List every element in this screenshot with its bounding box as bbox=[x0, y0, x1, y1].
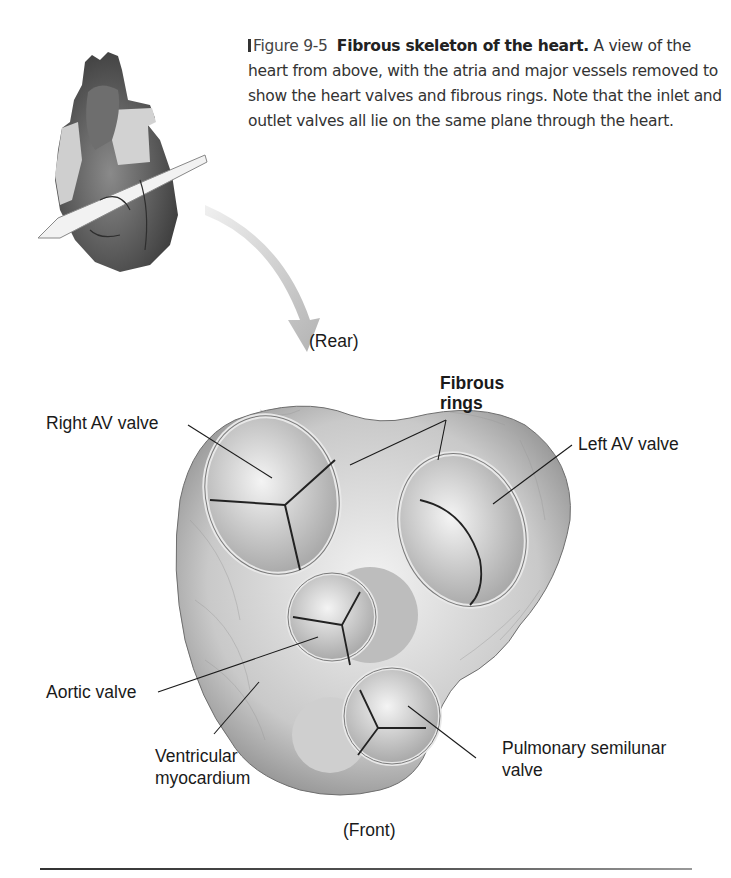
pulmonary-semilunar-valve-label-line1: Pulmonary semilunar bbox=[502, 738, 666, 759]
ventricular-myocardium-label-line1: Ventricular bbox=[155, 746, 238, 767]
pulmonary-semilunar-valve-label-line2: valve bbox=[502, 760, 543, 781]
ventricular-myocardium-label-line2: myocardium bbox=[155, 768, 250, 789]
figure-marker-icon bbox=[248, 39, 251, 52]
whole-heart-thumbnail bbox=[38, 52, 207, 272]
bottom-divider bbox=[40, 868, 692, 870]
orientation-front-label: (Front) bbox=[343, 820, 396, 841]
aortic-valve-label: Aortic valve bbox=[46, 682, 136, 703]
fibrous-rings-label-line2: rings bbox=[440, 393, 483, 414]
figure-title: Fibrous skeleton of the heart. bbox=[337, 37, 589, 55]
valve-plane-diagram bbox=[176, 401, 570, 795]
figure-number: Figure 9-5 bbox=[253, 37, 328, 55]
curved-arrow-icon bbox=[205, 205, 320, 352]
left-av-valve-label: Left AV valve bbox=[578, 434, 679, 455]
aortic-valve bbox=[288, 567, 418, 665]
orientation-rear-label: (Rear) bbox=[309, 331, 359, 352]
fibrous-rings-label-line1: Fibrous bbox=[440, 373, 504, 394]
right-av-valve-label: Right AV valve bbox=[46, 413, 159, 434]
figure-caption: Figure 9-5 Fibrous skeleton of the heart… bbox=[248, 34, 728, 134]
